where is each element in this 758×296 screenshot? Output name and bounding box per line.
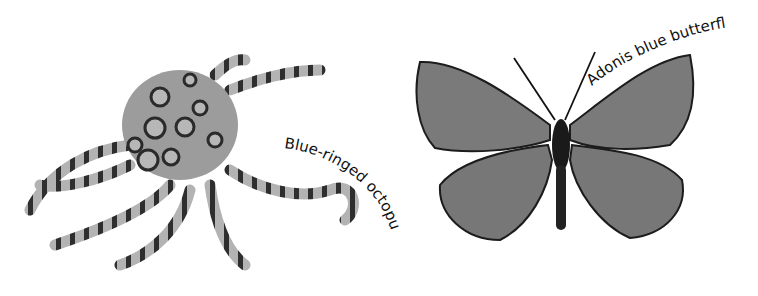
octopus-image <box>30 60 353 265</box>
butterfly-image <box>416 52 693 240</box>
butterfly-label: Adonis blue butterfly <box>0 0 727 89</box>
illustration: Blue-ringed octopus Adonis blue butterfl… <box>0 0 758 296</box>
figure-panel: Blue-ringed octopus Adonis blue butterfl… <box>0 0 758 296</box>
